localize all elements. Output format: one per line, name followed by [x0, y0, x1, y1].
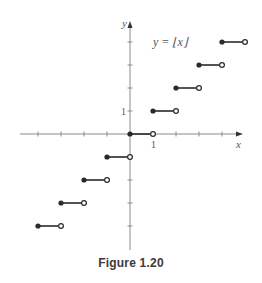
- closed-endpoint: [81, 177, 86, 182]
- closed-endpoint: [196, 62, 201, 67]
- y-tick-label-1: 1: [121, 106, 126, 117]
- open-endpoint: [151, 132, 156, 137]
- open-endpoint: [128, 155, 133, 160]
- open-endpoint: [59, 224, 64, 229]
- open-endpoint: [105, 178, 110, 183]
- open-endpoint: [82, 201, 87, 206]
- closed-endpoint: [150, 108, 155, 113]
- open-endpoint: [174, 109, 179, 114]
- open-endpoint: [243, 40, 248, 45]
- step-function-plot: y x 1 1 y = ⌊x⌋: [0, 0, 262, 283]
- open-endpoint: [197, 86, 202, 91]
- equation-label: y = ⌊x⌋: [152, 35, 189, 49]
- open-endpoint: [220, 63, 225, 68]
- figure-caption: Figure 1.20: [0, 256, 262, 270]
- closed-endpoint: [173, 85, 178, 90]
- x-tick-label-1: 1: [151, 139, 156, 150]
- y-axis-arrow-icon: [128, 21, 133, 28]
- closed-endpoint: [58, 200, 63, 205]
- x-axis-label: x: [235, 138, 241, 150]
- closed-endpoint: [127, 131, 132, 136]
- closed-endpoint: [35, 223, 40, 228]
- y-axis-label: y: [121, 17, 127, 29]
- closed-endpoint: [104, 154, 109, 159]
- x-axis-arrow-icon: [236, 132, 243, 137]
- closed-endpoint: [219, 39, 224, 44]
